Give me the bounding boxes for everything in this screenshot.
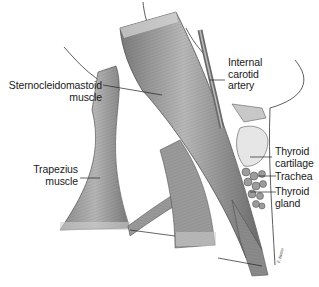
anatomy-figure: Internal carotid artery Sternocleidomast… [0,0,319,287]
label-line: artery [228,80,262,92]
chin-outline [270,60,304,108]
label-line: Thyroid [275,186,309,198]
label-internal-carotid-artery: Internal carotid artery [228,57,262,92]
label-trachea: Trachea [275,171,312,183]
label-line: Thyroid [275,146,314,158]
label-line: Internal [228,57,262,69]
label-sternocleidomastoid-muscle: Sternocleidomastoid muscle [6,80,102,103]
neck-muscles-illustration [0,0,319,287]
label-line: cartilage [275,158,314,170]
label-line: gland [275,198,309,210]
label-line: Trapezius [20,164,78,176]
label-trapezius-muscle: Trapezius muscle [20,164,78,187]
thyroid-cartilage-shape [237,126,268,166]
label-line: Sternocleidomastoid [6,80,102,92]
label-line: muscle [6,92,102,104]
label-line: Trachea [275,171,312,183]
label-thyroid-cartilage: Thyroid cartilage [275,146,314,169]
label-line: muscle [20,176,78,188]
label-thyroid-gland: Thyroid gland [275,186,309,209]
